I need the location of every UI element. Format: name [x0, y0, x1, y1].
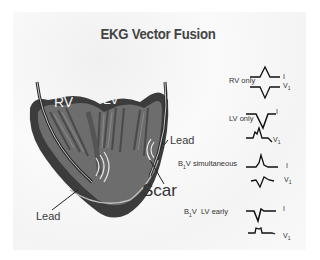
lead-i-label: I: [286, 162, 288, 169]
lv-lead-label: Lead: [170, 134, 194, 146]
lead-i-label: I: [283, 205, 285, 212]
row-label-biv-simultaneous: B1V simultaneous: [178, 159, 237, 170]
lead-i-label: I: [276, 108, 278, 115]
ekg-waveform-biv-simultaneous: [244, 153, 284, 189]
scar-label: Scar: [142, 181, 177, 201]
ekg-waveform-lv-only: [244, 110, 284, 152]
lead-v1-label: V1: [283, 82, 290, 91]
rv-lead-label: Lead: [36, 210, 60, 222]
lead-v1-label: V1: [273, 136, 280, 145]
ekg-waveform-rv-only-lead-i: [250, 64, 286, 100]
row-label-biv-lv-early: B1V LV early: [184, 207, 228, 218]
lead-v1-label: V1: [284, 176, 291, 185]
rv-label: RV: [54, 94, 73, 110]
ekg-waveform-biv-lv-early: [244, 203, 286, 245]
lead-v1-label: V1: [283, 232, 290, 241]
lead-i-label: I: [283, 73, 285, 80]
lv-label: LV: [103, 91, 119, 107]
